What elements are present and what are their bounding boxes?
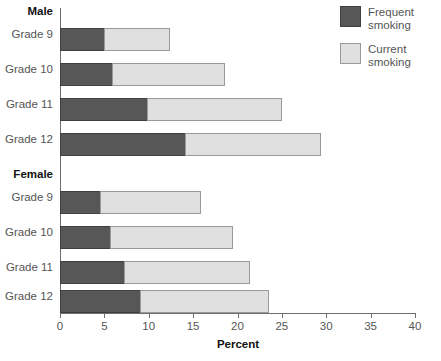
x-tick-label-0: 0 [57,320,63,332]
row-label-male-grade-11: Grade 11 [6,98,53,110]
x-tick-label-5: 5 [101,320,107,332]
x-tick-5 [104,313,105,318]
segment-current [185,133,321,156]
segment-current [147,98,282,121]
bar-female-grade-11 [60,261,250,284]
segment-frequent [60,290,140,313]
row-label-female-grade-10: Grade 10 [5,226,53,238]
row-label-female-grade-9: Grade 9 [11,191,53,203]
bar-male-grade-12 [60,133,321,156]
legend-swatch-frequent-icon [340,6,361,27]
legend-item-current-smoking: Current smoking [340,43,441,68]
row-label-male-grade-9: Grade 9 [11,28,53,40]
bar-male-grade-11 [60,98,282,121]
segment-frequent [60,98,147,121]
x-tick-label-15: 15 [187,320,200,332]
x-axis-title: Percent [60,338,416,350]
segment-frequent [60,28,104,51]
x-tick-label-40: 40 [409,320,422,332]
x-tick-10 [149,313,150,318]
x-tick-30 [326,313,327,318]
legend-label-frequent-line2: smoking [368,19,411,31]
group-label-female: Female [13,168,53,180]
segment-frequent [60,191,100,214]
row-label-male-grade-12: Grade 12 [5,133,53,145]
row-label-male-grade-10: Grade 10 [5,63,53,75]
segment-frequent [60,226,110,249]
segment-current [100,191,201,214]
segment-current [112,63,225,86]
legend-label-current: Current smoking [368,43,411,68]
stacked-bar-chart: Male Grade 9 Grade 10 Grade 11 Grade 12 … [0,0,441,361]
category-label-column: Male Grade 9 Grade 10 Grade 11 Grade 12 … [0,0,57,313]
x-tick-40 [415,313,416,318]
x-tick-15 [193,313,194,318]
x-tick-label-20: 20 [231,320,244,332]
x-tick-35 [371,313,372,318]
bar-female-grade-10 [60,226,233,249]
segment-frequent [60,261,124,284]
x-tick-label-25: 25 [275,320,288,332]
legend-label-frequent: Frequent smoking [368,6,414,31]
legend-label-current-line1: Current [368,43,406,55]
x-tick-label-30: 30 [320,320,333,332]
x-tick-0 [60,313,61,318]
segment-current [140,290,269,313]
x-tick-label-10: 10 [142,320,155,332]
legend-label-current-line2: smoking [368,56,411,68]
segment-current [104,28,170,51]
bar-female-grade-9 [60,191,201,214]
group-label-male: Male [27,5,53,17]
chart-legend: Frequent smoking Current smoking [340,6,441,80]
legend-item-frequent-smoking: Frequent smoking [340,6,441,31]
segment-frequent [60,133,185,156]
x-tick-25 [282,313,283,318]
x-tick-label-35: 35 [364,320,377,332]
bar-male-grade-10 [60,63,225,86]
bar-female-grade-12 [60,290,269,313]
legend-swatch-current-icon [340,43,361,64]
segment-current [110,226,233,249]
bar-male-grade-9 [60,28,170,51]
segment-frequent [60,63,112,86]
row-label-female-grade-12: Grade 12 [5,290,53,302]
row-label-female-grade-11: Grade 11 [6,261,53,273]
segment-current [124,261,250,284]
legend-label-frequent-line1: Frequent [368,6,414,18]
x-tick-20 [238,313,239,318]
